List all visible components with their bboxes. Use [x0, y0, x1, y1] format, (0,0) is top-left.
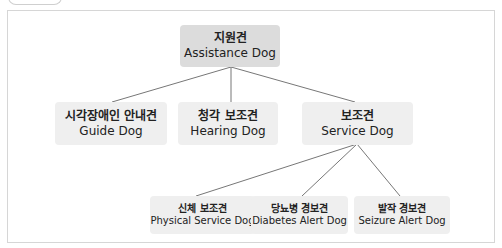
node-label-en: Service Dog [321, 124, 393, 139]
node-label-en: Diabetes Alert Dog [252, 215, 347, 228]
node-label-en: Guide Dog [79, 124, 142, 139]
node-label-en: Physical Service Dog [150, 215, 254, 228]
node-label-en: Hearing Dog [190, 124, 265, 139]
node-label-ko: 지원견 [214, 31, 247, 46]
node-service-dog: 보조견 Service Dog [302, 102, 413, 145]
node-label-en: Seizure Alert Dog [358, 215, 445, 228]
edge-service-seizure [357, 144, 400, 196]
edge-root-service [231, 67, 355, 102]
node-hearing-dog: 청각 보조견 Hearing Dog [178, 102, 278, 145]
edge-service-diabetes [302, 144, 357, 196]
node-physical-service-dog: 신체 보조견 Physical Service Dog [150, 196, 255, 234]
edge-root-guide [112, 67, 231, 102]
node-label-ko: 청각 보조견 [198, 109, 257, 124]
node-seizure-alert-dog: 발작 경보견 Seizure Alert Dog [354, 196, 450, 234]
node-diabetes-alert-dog: 당뇨병 경보견 Diabetes Alert Dog [251, 196, 348, 234]
node-label-ko: 시각장애인 안내견 [65, 109, 157, 124]
node-guide-dog: 시각장애인 안내견 Guide Dog [55, 102, 167, 145]
node-assistance-dog: 지원견 Assistance Dog [180, 25, 280, 67]
node-label-en: Assistance Dog [184, 46, 276, 61]
edge-service-physical [196, 144, 357, 196]
node-label-ko: 보조견 [341, 109, 374, 124]
node-label-ko: 당뇨병 경보견 [271, 203, 328, 216]
node-label-ko: 신체 보조견 [178, 203, 226, 216]
node-label-ko: 발작 경보견 [378, 203, 426, 216]
